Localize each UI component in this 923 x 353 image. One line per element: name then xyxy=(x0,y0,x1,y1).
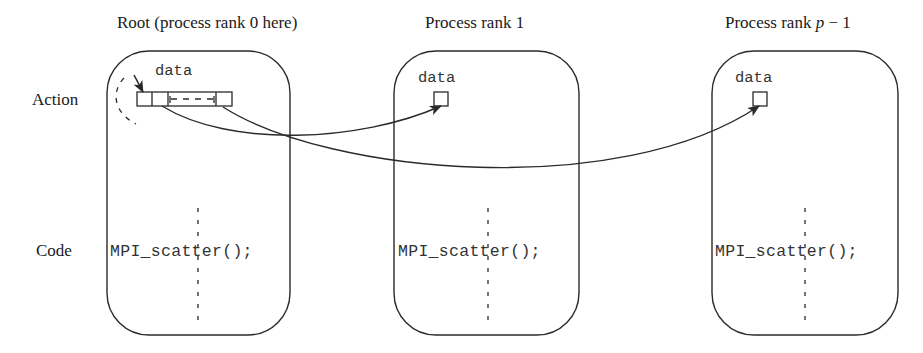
title-suffix: − 1 xyxy=(824,13,851,32)
scatter-arrow-to-rank-p-1 xyxy=(223,106,759,168)
root-self-copy-arc xyxy=(116,78,136,124)
diagram-canvas xyxy=(0,0,923,353)
process-1-data-label: data xyxy=(418,69,455,87)
root-process-title: Root (process rank 0 here) xyxy=(117,13,297,33)
title-variable: p xyxy=(816,13,825,32)
root-self-copy-arrow xyxy=(134,75,143,92)
root-data-array xyxy=(137,92,232,106)
process-p-1-title: Process rank p − 1 xyxy=(725,13,851,33)
process-1-data-box xyxy=(434,92,448,106)
root-data-label: data xyxy=(155,62,192,80)
root-code-call: MPI_scatter(); xyxy=(110,242,253,261)
action-row-label: Action xyxy=(32,90,78,110)
process-p-1-data-box xyxy=(753,92,767,106)
process-1-code-call: MPI_scatter(); xyxy=(398,242,541,261)
title-prefix: Process rank xyxy=(725,13,816,32)
process-1-box xyxy=(394,51,579,335)
code-row-label: Code xyxy=(36,241,72,261)
process-1-title: Process rank 1 xyxy=(425,13,524,33)
process-p-1-data-label: data xyxy=(735,69,772,87)
process-p-1-code-call: MPI_scatter(); xyxy=(715,242,858,261)
scatter-arrow-to-rank-1 xyxy=(162,106,441,135)
